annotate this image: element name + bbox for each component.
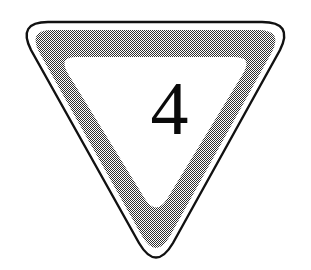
sign-numeral-label: 4 [0,70,311,146]
figure-canvas: 4 [0,0,311,270]
